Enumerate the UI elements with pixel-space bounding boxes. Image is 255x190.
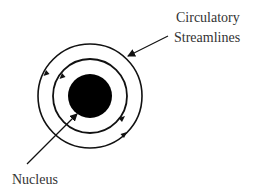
diagram-canvas — [0, 0, 255, 190]
nucleus-pointer-arrow-icon — [27, 114, 77, 164]
nucleus — [68, 74, 112, 118]
streamlines-label-line2: Streamlines — [174, 30, 240, 46]
nucleus-label: Nucleus — [12, 172, 58, 188]
streamlines-label-line1: Circulatory — [176, 10, 240, 26]
streamlines-pointer-arrow-icon — [128, 36, 168, 56]
